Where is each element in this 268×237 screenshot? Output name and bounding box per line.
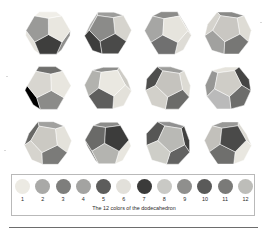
color-swatch-label-10: 10 [197, 195, 212, 204]
dodecahedron-2 [78, 6, 138, 61]
color-swatch-label-1: 1 [15, 195, 30, 204]
color-swatch-3 [56, 179, 71, 194]
dodecahedron-5 [18, 61, 78, 116]
color-swatch-label-9: 9 [177, 195, 192, 204]
scan-speck [4, 150, 6, 151]
dodecahedron-3 [138, 6, 198, 61]
color-swatch-label-8: 8 [157, 195, 172, 204]
horizontal-rule [9, 227, 258, 228]
dodecahedron-6 [78, 61, 138, 116]
dodecahedron-8 [198, 61, 258, 116]
dodecahedron-11 [138, 115, 198, 170]
color-swatch-label-4: 4 [76, 195, 91, 204]
color-swatch-6 [116, 179, 131, 194]
color-swatch-1 [15, 179, 30, 194]
dodecahedron-9 [18, 115, 78, 170]
scan-speck [260, 22, 262, 23]
color-swatch-label-12: 12 [238, 195, 253, 204]
figure-page: 123456789101112 The 12 colors of the dod… [0, 0, 268, 237]
color-swatch-label-3: 3 [56, 195, 71, 204]
color-swatch-label-7: 7 [137, 195, 152, 204]
dodecahedron-12 [198, 115, 258, 170]
dodecahedron-1 [18, 6, 78, 61]
dodecahedron-4 [198, 6, 258, 61]
color-swatch-12 [238, 179, 253, 194]
color-swatch-label-6: 6 [116, 195, 131, 204]
color-swatch-9 [177, 179, 192, 194]
color-swatch-8 [157, 179, 172, 194]
figure-caption: The 12 colors of the dodecahedron [12, 204, 256, 213]
dodecahedron-7 [138, 61, 198, 116]
swatch-label-row: 123456789101112 [15, 195, 253, 204]
color-swatch-10 [197, 179, 212, 194]
color-legend: 123456789101112 The 12 colors of the dod… [11, 174, 255, 216]
color-swatch-5 [96, 179, 111, 194]
dodecahedron-10 [78, 115, 138, 170]
color-swatch-7 [137, 179, 152, 194]
dodecahedron-grid [18, 6, 258, 170]
color-swatch-label-2: 2 [35, 195, 50, 204]
scan-speck [6, 76, 8, 77]
swatch-row [15, 178, 253, 194]
color-swatch-11 [218, 179, 233, 194]
color-swatch-2 [35, 179, 50, 194]
color-swatch-label-5: 5 [96, 195, 111, 204]
color-swatch-4 [76, 179, 91, 194]
color-swatch-label-11: 11 [218, 195, 233, 204]
